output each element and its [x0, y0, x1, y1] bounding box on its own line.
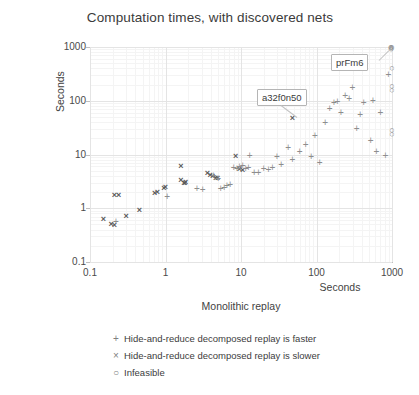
data-point: + [338, 108, 344, 118]
y-tick-mark [86, 208, 90, 209]
data-point: + [322, 118, 328, 128]
data-point: + [357, 110, 363, 120]
grid-major-vertical [392, 47, 393, 262]
data-point: + [383, 151, 389, 161]
data-point: + [285, 143, 291, 153]
data-point: + [377, 108, 383, 118]
data-point: + [227, 180, 233, 190]
y-tick-label: 1 [48, 202, 86, 213]
data-point: × [163, 182, 168, 191]
chart-root: Computation times, with discovered nets … [0, 0, 419, 395]
data-point: + [200, 185, 206, 195]
legend-label: Infeasible [124, 367, 165, 378]
data-point: ○ [389, 44, 394, 53]
x-axis-unit-label: Seconds [300, 281, 380, 293]
legend-marker-icon: + [110, 333, 122, 344]
y-axis-unit-label: Seconds [54, 71, 66, 112]
grid-major-horizontal [90, 208, 392, 209]
annotation-label: a32f0n50 [257, 89, 307, 106]
legend-item: ×Hide-and-reduce decomposed replay is sl… [110, 347, 360, 364]
data-point: + [308, 152, 314, 162]
grid-major-horizontal [90, 47, 392, 48]
data-point: + [290, 155, 296, 165]
legend-marker-icon: × [110, 350, 122, 361]
data-point: + [317, 158, 323, 168]
x-tick-label: 1 [146, 267, 186, 278]
y-tick-label: 10 [48, 149, 86, 160]
grid-major-horizontal [90, 155, 392, 156]
data-point: + [269, 163, 275, 173]
y-tick-mark [86, 155, 90, 156]
data-point: × [155, 188, 160, 197]
data-point: × [101, 215, 106, 224]
grid-major-horizontal [90, 262, 392, 263]
data-point: + [368, 136, 374, 146]
data-point: + [247, 151, 253, 161]
data-point: + [278, 160, 284, 170]
data-point: + [164, 192, 170, 202]
x-axis-title: Monolithic replay [90, 300, 392, 312]
data-point: + [354, 124, 360, 134]
data-point: + [335, 97, 341, 107]
annotation-label: prFm6 [331, 54, 368, 71]
data-point: × [178, 161, 183, 170]
y-tick-mark [86, 47, 90, 48]
data-point: × [183, 177, 188, 186]
data-point: × [123, 211, 128, 220]
data-point: + [297, 147, 303, 157]
data-point: + [350, 83, 356, 93]
x-tick-label: 0.1 [70, 267, 110, 278]
y-tick-label: 100 [48, 95, 86, 106]
y-tick-mark [86, 101, 90, 102]
data-point: × [233, 151, 238, 160]
legend-item: ○Infeasible [110, 364, 360, 381]
x-tick-label: 100 [297, 267, 337, 278]
legend-label: Hide-and-reduce decomposed replay is fas… [124, 333, 316, 344]
data-point: + [361, 98, 367, 108]
data-point: ○ [389, 64, 394, 73]
chart-legend: +Hide-and-reduce decomposed replay is fa… [110, 330, 360, 381]
chart-title: Computation times, with discovered nets [60, 10, 360, 25]
y-tick-mark [86, 262, 90, 263]
x-tick-label: 10 [221, 267, 261, 278]
data-point: + [245, 163, 251, 173]
data-point: ○ [389, 85, 394, 94]
data-point: + [373, 147, 379, 157]
legend-label: Hide-and-reduce decomposed replay is slo… [124, 350, 320, 361]
data-point: + [346, 94, 352, 104]
plot-area: ×××××××××××××××××××××××××+++++++++++++++… [90, 47, 392, 262]
legend-marker-icon: ○ [110, 367, 122, 378]
y-tick-label: 0.1 [48, 256, 86, 267]
data-point: × [137, 206, 142, 215]
data-point: + [303, 140, 309, 150]
data-point: + [113, 217, 119, 227]
data-point: + [370, 96, 376, 106]
x-tick-label: 1000 [372, 267, 412, 278]
legend-item: +Hide-and-reduce decomposed replay is fa… [110, 330, 360, 347]
data-point: ○ [389, 130, 394, 139]
data-point: × [116, 190, 121, 199]
y-tick-label: 1000 [48, 41, 86, 52]
data-point: + [312, 131, 318, 141]
